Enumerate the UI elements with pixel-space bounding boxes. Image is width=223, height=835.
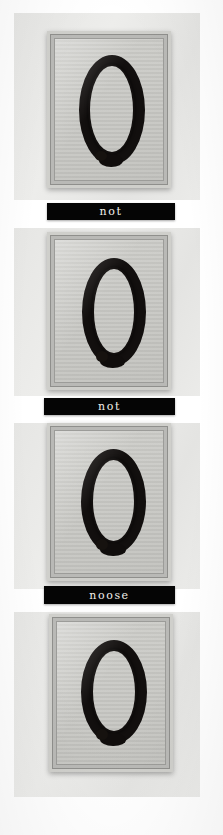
framed-artwork-1 <box>14 13 200 200</box>
caption-plate-1-text: not <box>100 206 123 217</box>
rope-knot-bump-icon <box>96 351 108 362</box>
rope-knot-bump-icon <box>96 729 108 740</box>
rope-oval-icon <box>79 55 145 165</box>
frame-glass-4 <box>56 621 166 765</box>
caption-plate-2-text: not <box>98 401 121 412</box>
picture-frame-3 <box>47 423 171 581</box>
picture-frame-2 <box>47 232 171 390</box>
frame-glass-2 <box>54 239 164 383</box>
frame-glass-3 <box>54 430 164 574</box>
rope-oval-icon <box>81 449 146 554</box>
picture-frame-4 <box>49 614 173 772</box>
rope-loop-3 <box>55 431 163 573</box>
rope-loop-1 <box>55 39 163 180</box>
framed-artwork-2 <box>14 228 200 396</box>
frame-glass-1 <box>54 38 164 181</box>
caption-plate-3-text: noose <box>89 590 129 601</box>
rope-loop-2 <box>55 240 163 382</box>
caption-plate-3: noose <box>44 586 175 604</box>
rope-knot-bump-icon <box>95 151 107 161</box>
image-strip: not not <box>0 0 223 835</box>
framed-artwork-3 <box>14 423 200 589</box>
picture-frame-1 <box>47 31 171 188</box>
caption-plate-2: not <box>44 398 175 415</box>
rope-knot-bump-icon <box>96 539 108 550</box>
caption-plate-1: not <box>47 203 175 220</box>
rope-loop-4 <box>57 622 165 764</box>
rope-oval-icon <box>82 258 146 366</box>
rope-oval-icon <box>81 640 147 744</box>
framed-artwork-4 <box>14 612 200 797</box>
